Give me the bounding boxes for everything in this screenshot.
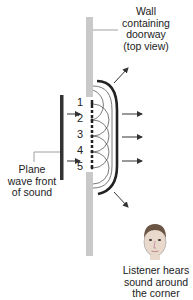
listener-face-icon bbox=[144, 224, 166, 260]
plane-wave-label: Plane wave front of sound bbox=[4, 164, 60, 199]
plane-wave-front bbox=[60, 95, 64, 180]
wall-upper bbox=[86, 17, 93, 97]
wall-label: Wall containing doorway (top view) bbox=[118, 6, 174, 52]
huygens-wavelets bbox=[93, 90, 109, 184]
source-label-5: 5 bbox=[77, 161, 83, 173]
outgoing-arrow-lower-diagonal bbox=[114, 192, 128, 207]
source-label-1: 1 bbox=[77, 97, 83, 109]
wall-lower bbox=[86, 172, 93, 256]
source-label-2: 2 bbox=[77, 113, 83, 125]
source-label-3: 3 bbox=[77, 129, 83, 141]
outgoing-arrow-upper-diagonal bbox=[114, 68, 128, 83]
listener-label: Listener hears sound around the corner bbox=[120, 265, 192, 300]
doorway-sources bbox=[91, 100, 94, 170]
plane-wave-leader-line bbox=[34, 152, 60, 162]
source-label-4: 4 bbox=[77, 145, 83, 157]
